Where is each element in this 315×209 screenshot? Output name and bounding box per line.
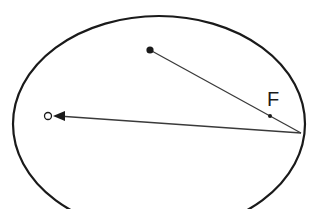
reflected-ray (58, 116, 301, 133)
source-point (146, 46, 153, 53)
focus-label: F (267, 88, 279, 110)
target-point (45, 113, 52, 120)
arrowhead-icon (53, 111, 65, 121)
focus-point-f (268, 114, 272, 118)
ellipse-reflection-diagram: F (0, 0, 315, 209)
ellipse-boundary (13, 16, 305, 209)
